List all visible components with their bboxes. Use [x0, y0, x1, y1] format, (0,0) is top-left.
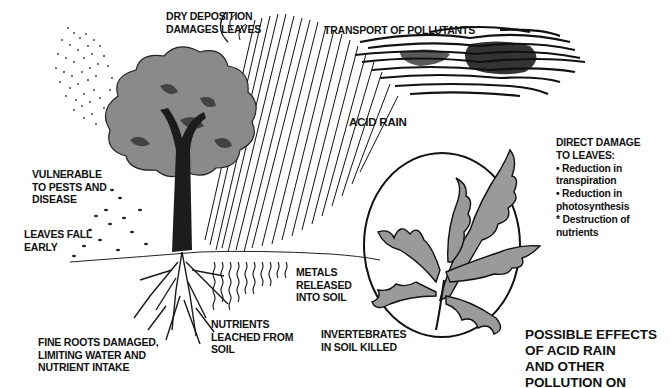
label-dry-deposition: DRY DEPOSITION DAMAGES LEAVES [166, 10, 261, 35]
dry-deposition-dots-icon [55, 27, 113, 125]
label-invertebrates-killed: INVERTEBRATES IN SOIL KILLED [321, 328, 406, 353]
label-metals-released: METALS RELEASED INTO SOIL [296, 266, 352, 304]
label-leaves-fall-early: LEAVES FALL EARLY [24, 228, 92, 253]
label-nutrients-leached: NUTRIENTS LEACHED FROM SOIL [211, 318, 293, 356]
label-fine-roots-damaged: FINE ROOTS DAMAGED, LIMITING WATER AND N… [38, 336, 158, 374]
label-transport-of-pollutants: TRANSPORT OF POLLUTANTS [324, 24, 475, 37]
diagram-title: POSSIBLE EFFECTS OF ACID RAIN AND OTHER … [525, 327, 657, 388]
oak-leaf-illustration-icon [364, 150, 540, 337]
label-acid-rain: ACID RAIN [349, 116, 407, 129]
direct-damage-to-leaves: DIRECT DAMAGE TO LEAVES: • Reduction in … [556, 137, 640, 239]
label-vulnerable: VULNERABLE TO PESTS AND DISEASE [32, 168, 107, 206]
leaching-lines-icon [213, 262, 287, 310]
pollution-cloud-fill [400, 41, 536, 74]
